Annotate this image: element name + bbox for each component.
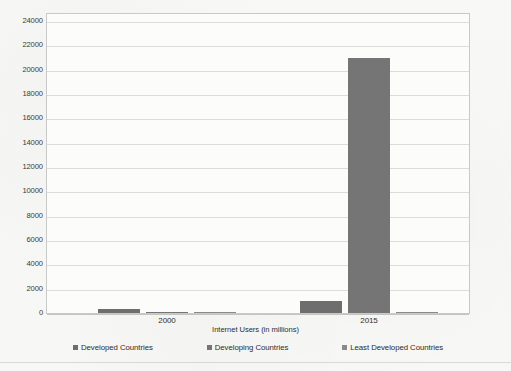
- y-axis-tick-label: 6000: [0, 236, 43, 244]
- y-axis-tick-label: 10000: [0, 187, 43, 195]
- y-axis-tick-label: 4000: [0, 260, 43, 268]
- x-axis-title: Internet Users (in millions): [0, 325, 511, 334]
- legend-item-developing-countries: Developing Countries: [207, 343, 289, 352]
- y-axis-tick-label: 12000: [0, 163, 43, 171]
- bar-2000-developing-countries: [146, 312, 188, 313]
- page-edge-divider: [0, 362, 511, 363]
- bar-2000-developed-countries: [98, 309, 140, 313]
- legend-swatch-icon: [73, 345, 78, 350]
- bar-2000-least-developed-countries: [194, 312, 236, 313]
- y-axis-tick-label: 0: [0, 309, 43, 317]
- legend-label: Developing Countries: [215, 343, 289, 352]
- y-axis-tick-label: 2000: [0, 285, 43, 293]
- x-axis-label-2000: 2000: [127, 316, 207, 325]
- y-axis-tick-label: 8000: [0, 212, 43, 220]
- bar-2015-developing-countries: [348, 58, 390, 314]
- bar-2015-developed-countries: [300, 301, 342, 313]
- y-axis-tick-label: 24000: [0, 17, 43, 25]
- legend-label: Least Developed Countries: [350, 343, 443, 352]
- y-axis-tick-label: 22000: [0, 41, 43, 49]
- legend-label: Developed Countries: [81, 343, 153, 352]
- legend-item-developed-countries: Developed Countries: [73, 343, 153, 352]
- gridline-0: [47, 314, 469, 315]
- y-axis-tick-label: 20000: [0, 66, 43, 74]
- x-axis-label-2015: 2015: [329, 316, 409, 325]
- chart-legend: Developed CountriesDeveloping CountriesL…: [46, 343, 470, 352]
- y-axis-tick-label: 18000: [0, 90, 43, 98]
- y-axis-tick-label: 16000: [0, 114, 43, 122]
- legend-swatch-icon: [342, 345, 347, 350]
- legend-swatch-icon: [207, 345, 212, 350]
- y-axis-tick-label: 14000: [0, 139, 43, 147]
- legend-item-least-developed-countries: Least Developed Countries: [342, 343, 443, 352]
- y-axis: 0200040006000800010000120001400016000180…: [0, 13, 43, 314]
- bar-group-container: [47, 14, 469, 313]
- bar-2015-least-developed-countries: [396, 312, 438, 313]
